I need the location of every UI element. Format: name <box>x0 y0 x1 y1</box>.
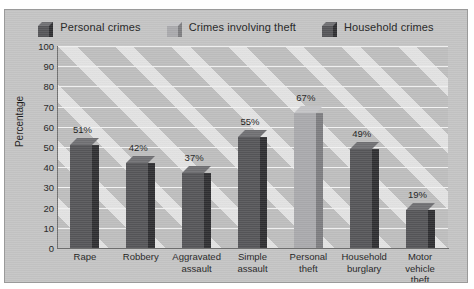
bar[interactable] <box>294 113 316 248</box>
x-axis-category-label-line: Personal <box>280 251 336 263</box>
bar-front-face <box>70 145 92 248</box>
x-axis-category-label-line: theft <box>280 263 336 275</box>
y-axis-tick-label: 20 <box>30 202 54 213</box>
gridline <box>57 46 448 47</box>
cube-swatch-icon <box>322 22 337 35</box>
y-axis-tick-label: 40 <box>30 162 54 173</box>
legend-item-personal-crimes: Personal crimes <box>38 19 140 35</box>
y-axis-tick-labels: 1009080706050403020100 <box>27 10 54 282</box>
y-axis-tick-label: 10 <box>30 222 54 233</box>
bar-value-label: 55% <box>229 116 271 127</box>
y-axis-tick-label: 50 <box>30 142 54 153</box>
x-axis-line <box>57 248 449 249</box>
bar-side-face <box>316 113 323 248</box>
x-axis-category-label: Robbery <box>113 251 169 263</box>
x-axis-category-label: Aggravatedassault <box>169 251 225 274</box>
y-axis-line <box>57 46 58 249</box>
gridline <box>57 107 448 108</box>
x-axis-category-label-line: theft <box>392 274 448 283</box>
cube-swatch-icon <box>38 22 53 35</box>
legend-item-crimes-involving-theft: Crimes involving theft <box>167 19 296 35</box>
bar-value-label: 49% <box>341 128 383 139</box>
y-axis-tick-label: 30 <box>30 182 54 193</box>
x-axis-category-label-line: Household <box>336 251 392 263</box>
bar[interactable] <box>406 210 428 248</box>
x-axis-category-label: Householdburglary <box>336 251 392 274</box>
bar-value-label: 67% <box>285 92 327 103</box>
y-axis-title: Percentage <box>14 82 25 162</box>
y-axis-tick-label: 0 <box>30 243 54 254</box>
bar[interactable] <box>70 145 92 248</box>
bar-value-label: 51% <box>61 124 103 135</box>
bar-front-face <box>294 113 316 248</box>
x-axis-category-label: Rape <box>57 251 113 263</box>
x-axis-category-labels: RapeRobberyAggravatedassaultSimpleassaul… <box>57 251 448 283</box>
legend-item-household-crimes: Household crimes <box>322 19 434 35</box>
x-axis-category-label-line: assault <box>225 263 281 275</box>
cube-swatch-icon <box>167 22 182 35</box>
x-axis-category-label-line: Aggravated <box>169 251 225 263</box>
x-axis-category-label: Personaltheft <box>280 251 336 274</box>
x-axis-category-label-line: assault <box>169 263 225 275</box>
plot-area: 51%42%37%55%67%49%19% <box>57 46 448 248</box>
x-axis-category-label-line: Motor <box>392 251 448 263</box>
bar-front-face <box>406 210 428 248</box>
x-axis-category-label-line: Rape <box>57 251 113 263</box>
gridline <box>57 66 448 67</box>
y-axis-tick-label: 100 <box>30 41 54 52</box>
chart-container: Personal crimes Crimes involving theft H… <box>4 9 468 283</box>
bar-value-label: 42% <box>117 142 159 153</box>
x-axis-category-label-line: vehicle <box>392 263 448 275</box>
gridline <box>57 127 448 128</box>
bar[interactable] <box>126 163 148 248</box>
bar-side-face <box>92 145 99 248</box>
x-axis-category-label-line: Simple <box>225 251 281 263</box>
x-axis-category-label: Motorvehicletheft <box>392 251 448 283</box>
bar-side-face <box>260 137 267 248</box>
y-axis-tick-label: 70 <box>30 101 54 112</box>
legend-label: Crimes involving theft <box>189 21 296 33</box>
x-axis-category-label-line: burglary <box>336 263 392 275</box>
y-axis-tick-label: 90 <box>30 61 54 72</box>
x-axis-category-label-line: Robbery <box>113 251 169 263</box>
bar-side-face <box>428 210 435 248</box>
bar-side-face <box>372 149 379 248</box>
bar-side-face <box>148 163 155 248</box>
plot-wrapper: 51%42%37%55%67%49%19% 100908070605040302… <box>5 10 467 282</box>
bar-value-label: 19% <box>397 189 439 200</box>
bar-front-face <box>238 137 260 248</box>
bar-front-face <box>182 173 204 248</box>
bar-front-face <box>126 163 148 248</box>
bar-value-label: 37% <box>173 152 215 163</box>
bar-front-face <box>350 149 372 248</box>
y-axis-tick-label: 80 <box>30 81 54 92</box>
x-axis-category-label: Simpleassault <box>225 251 281 274</box>
legend-label: Household crimes <box>344 21 434 33</box>
legend-label: Personal crimes <box>60 21 140 33</box>
bar[interactable] <box>238 137 260 248</box>
bar-side-face <box>204 173 211 248</box>
bar[interactable] <box>350 149 372 248</box>
y-axis-tick-label: 60 <box>30 121 54 132</box>
gridline <box>57 86 448 87</box>
chart-legend: Personal crimes Crimes involving theft H… <box>5 14 467 40</box>
bar[interactable] <box>182 173 204 248</box>
